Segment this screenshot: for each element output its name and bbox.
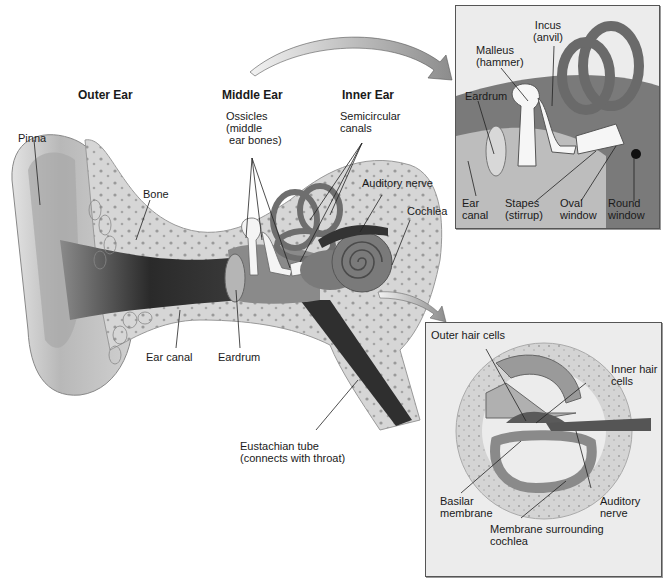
cochlea-inset: Outer hair cells Inner hair cells Basila… xyxy=(425,322,662,577)
label-oval-window: Oval window xyxy=(560,197,597,221)
label-ear-canal-inset: Ear canal xyxy=(462,197,488,221)
cochlea-shape xyxy=(332,232,392,292)
arrow-to-middle-ear-inset xyxy=(250,37,452,80)
middle-ear-inset: Incus (anvil) Malleus (hammer) Eardrum E… xyxy=(455,5,660,229)
label-round-window: Round window xyxy=(608,197,645,221)
label-eardrum: Eardrum xyxy=(218,351,260,363)
label-ear-canal: Ear canal xyxy=(146,351,192,363)
label-auditory-nerve-inset: Auditory nerve xyxy=(600,495,640,519)
eardrum-shape xyxy=(225,254,245,302)
label-auditory-nerve: Auditory nerve xyxy=(362,177,433,189)
label-incus: Incus (anvil) xyxy=(533,19,563,43)
label-stapes: Stapes (stirrup) xyxy=(505,197,543,221)
label-bone: Bone xyxy=(143,188,169,200)
label-inner-hair-cells: Inner hair cells xyxy=(611,363,657,387)
header-middle-ear: Middle Ear xyxy=(222,88,283,102)
label-semicircular-canals: Semicircular canals xyxy=(340,110,401,134)
label-malleus: Malleus (hammer) xyxy=(476,44,524,68)
label-outer-hair-cells: Outer hair cells xyxy=(431,329,505,341)
label-ossicles: Ossicles (middle ear bones) xyxy=(226,110,282,146)
label-membrane-surrounding-cochlea: Membrane surrounding cochlea xyxy=(490,523,604,547)
label-eustachian-tube: Eustachian tube (connects with throat) xyxy=(240,440,345,464)
label-eardrum-inset: Eardrum xyxy=(465,90,507,102)
label-cochlea: Cochlea xyxy=(407,205,447,217)
label-pinna: Pinna xyxy=(18,132,46,144)
header-inner-ear: Inner Ear xyxy=(342,88,394,102)
header-outer-ear: Outer Ear xyxy=(78,88,133,102)
label-basilar-membrane: Basilar membrane xyxy=(440,495,493,519)
